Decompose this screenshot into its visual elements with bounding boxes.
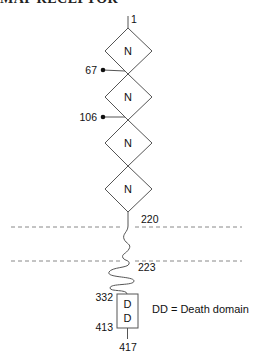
- transmembrane-helix: [123, 226, 130, 264]
- residue-67-label: 67: [85, 64, 97, 76]
- extracellular-domain: N N N N: [105, 28, 152, 212]
- residue-220-label: 220: [141, 213, 159, 225]
- glycosylation-site-106: 106: [79, 111, 125, 123]
- death-domain-label-bottom: D: [124, 312, 132, 324]
- membrane-boundary: [11, 227, 242, 261]
- residue-223-label: 223: [138, 261, 156, 273]
- glycosylation-dot-icon: [101, 115, 106, 120]
- n-domain-3-label: N: [124, 137, 132, 149]
- residue-332-label: 332: [95, 291, 113, 303]
- n-domain-4-label: N: [124, 183, 132, 195]
- residue-106-label: 106: [79, 111, 97, 123]
- residue-417-label: 417: [119, 341, 137, 353]
- death-domain-label-top: D: [124, 298, 132, 310]
- residue-1-label: 1: [131, 13, 137, 25]
- death-domain-legend: DD = Death domain: [152, 303, 249, 315]
- cytoplasmic-linker: [109, 264, 134, 294]
- glycosylation-dot-icon: [101, 68, 106, 73]
- n-domain-2-label: N: [124, 91, 132, 103]
- residue-413-label: 413: [95, 321, 113, 333]
- receptor-diagram: 1 N N N N 67 106 220 223 D D 332 413: [0, 0, 255, 363]
- n-domain-1-label: N: [124, 45, 132, 57]
- glycosylation-site-67: 67: [85, 64, 125, 76]
